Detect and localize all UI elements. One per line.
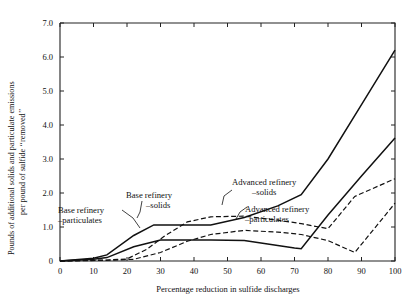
x-axis-ticks — [60, 23, 395, 261]
x-tick-label-60: 60 — [257, 266, 266, 276]
annotation-base-solids: Base refinery–solids — [126, 190, 173, 210]
annotation-advanced-solids: Advanced refinery–solids — [232, 177, 297, 197]
annotation-advanced-particulates: Advanced refinery–particulates — [244, 204, 310, 224]
annotation-base-particulates-line1: Base refinery — [58, 205, 105, 215]
annotation-base-solids-line1: Base refinery — [126, 190, 173, 200]
y-tick-label-7: 7.0 — [42, 18, 53, 28]
annotation-base-particulates-line2: –particulates — [57, 215, 103, 225]
y-tick-label-4: 4.0 — [42, 120, 53, 130]
x-tick-label-20: 20 — [123, 266, 132, 276]
x-tick-label-50: 50 — [223, 266, 232, 276]
y-tick-label-5: 5.0 — [42, 86, 53, 96]
y-tick-label-0: 0 — [49, 256, 53, 266]
x-axis-title: Percentage reduction in sulfide discharg… — [156, 284, 299, 294]
series-line-base-refinery-particulates — [60, 138, 395, 261]
y-axis-title-line1: Pounds of additional solids and particul… — [7, 81, 16, 255]
x-tick-label-40: 40 — [190, 266, 199, 276]
y-tick-label-2: 2.0 — [42, 188, 53, 198]
annotation-advanced-solids-line1: Advanced refinery — [232, 177, 297, 187]
y-tick-label-6: 6.0 — [42, 52, 53, 62]
x-axis-tick-labels: 0102030405060708090100 — [58, 266, 402, 276]
leader-base-particulates — [122, 210, 140, 228]
leader-advanced-solids — [222, 190, 232, 205]
x-tick-label-10: 10 — [89, 266, 98, 276]
y-tick-label-3: 3.0 — [42, 154, 53, 164]
y-axis-title: Pounds of additional solids and particul… — [7, 81, 27, 255]
plot-frame — [60, 23, 395, 261]
plot-border — [60, 23, 395, 261]
chart-figure: 0102030405060708090100 01.02.03.04.05.06… — [0, 0, 416, 300]
y-tick-label-1: 1.0 — [42, 222, 53, 232]
y-axis-title-line2: per pound of sulfide ‘‘removed’’ — [18, 108, 27, 215]
annotation-base-solids-line2: –solids — [145, 200, 171, 210]
x-tick-label-30: 30 — [156, 266, 165, 276]
annotation-advanced-particulates-line2: –particulates — [244, 214, 290, 224]
annotation-advanced-solids-line2: –solids — [251, 187, 277, 197]
series-line-base-refinery-solids — [60, 50, 395, 261]
y-axis-ticks — [60, 23, 395, 261]
y-axis-tick-labels: 01.02.03.04.05.06.07.0 — [42, 18, 53, 266]
x-tick-label-70: 70 — [290, 266, 299, 276]
x-tick-label-0: 0 — [58, 266, 62, 276]
data-series-group — [60, 50, 395, 261]
x-tick-label-100: 100 — [389, 266, 402, 276]
leader-base-solids — [137, 201, 142, 218]
annotation-advanced-particulates-line1: Advanced refinery — [245, 204, 310, 214]
x-tick-label-80: 80 — [324, 266, 333, 276]
annotation-base-particulates: Base refinery–particulates — [57, 205, 105, 225]
x-tick-label-90: 90 — [357, 266, 366, 276]
emissions-line-chart: 0102030405060708090100 01.02.03.04.05.06… — [0, 0, 416, 300]
series-annotations: Base refinery–solidsBase refinery–partic… — [57, 177, 310, 225]
